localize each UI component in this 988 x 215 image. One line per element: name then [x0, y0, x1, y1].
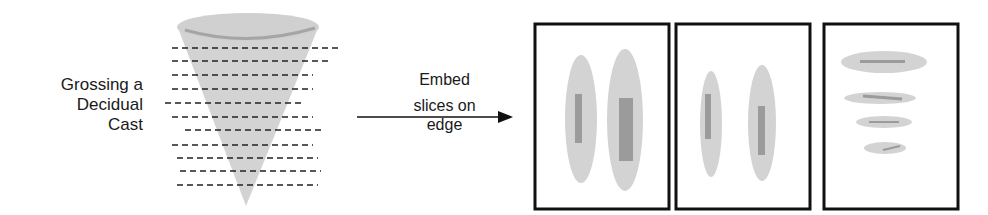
decidual-cast-cone — [177, 13, 319, 206]
source-label-line-1: Grossing a — [61, 75, 143, 95]
cassette-2 — [676, 24, 810, 209]
process-label-top: Embed — [382, 70, 507, 89]
cassette-3 — [824, 24, 958, 209]
process-label-line-2: edge — [382, 115, 507, 134]
process-label: Embed slices on edge — [382, 96, 507, 134]
source-label-line-2: Decidual — [61, 95, 143, 115]
source-label-line-3: Cast — [61, 115, 143, 135]
source-label: Grossing a Decidual Cast — [61, 75, 143, 135]
cassette-1 — [535, 24, 669, 209]
process-label-line-1: slices on — [382, 96, 507, 115]
